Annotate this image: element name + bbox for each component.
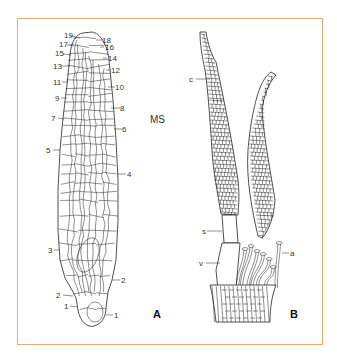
marker-3: 3 [48,246,53,255]
marker-2-left: 2 [56,291,61,300]
archegonium [240,247,250,290]
marker-1-right: 1 [114,311,119,320]
marker-13: 13 [53,62,62,71]
marker-15: 15 [55,49,64,58]
marker-8: 8 [120,104,125,113]
panel-a-drawing [58,32,118,326]
marker-14: 14 [108,54,117,63]
panel-b-drawing [200,32,282,322]
marker-6: 6 [122,125,127,134]
archegonium-neck [254,250,260,253]
archegonium-neck [260,253,266,256]
marker-4: 4 [127,170,132,179]
stalk [222,215,238,243]
marker-5: 5 [46,146,51,155]
panel-b-label: B [290,308,298,320]
marker-2-right: 2 [121,276,126,285]
marker-10: 10 [115,83,124,92]
label-a: a [290,249,295,258]
label-v: v [199,259,203,268]
marker-11: 11 [53,78,62,87]
archegonium-neck [266,258,272,261]
botanical-figure: 19 17 15 13 11 9 7 5 3 2 1 18 16 14 12 1… [0,0,337,358]
archegonium-neck [242,248,248,251]
panel-a-label: A [153,308,161,320]
marker-17: 17 [59,40,68,49]
marker-1-left: 1 [64,302,69,311]
label-s: s [202,227,206,236]
archegonium [278,244,281,288]
marker-12: 12 [111,66,120,75]
label-c: c [189,75,193,84]
marker-16: 16 [105,43,114,52]
marker-9: 9 [55,94,60,103]
marker-7: 7 [51,114,56,123]
archegonium-neck [276,242,282,245]
archegonium-neck [248,245,254,248]
left-leaf [200,32,239,215]
archegonium-neck [270,266,276,269]
marker-19: 19 [64,31,73,40]
ms-region-label: MS [150,114,165,125]
panel-b-labels: c s v a [189,75,295,268]
